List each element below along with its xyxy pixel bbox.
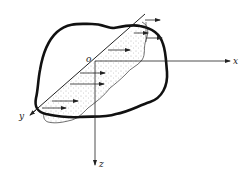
origin-label: o bbox=[86, 54, 92, 64]
diagram-canvas: o x y z bbox=[0, 0, 248, 181]
y-axis-arrow bbox=[30, 110, 36, 115]
y-axis-label: y bbox=[18, 111, 25, 121]
x-axis-label: x bbox=[233, 56, 238, 66]
z-axis-label: z bbox=[98, 159, 104, 169]
